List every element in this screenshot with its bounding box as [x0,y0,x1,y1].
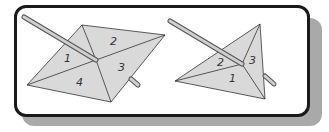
left-face-label: 4 [76,76,83,89]
left-face-outline [27,25,165,102]
right-rod [170,21,242,64]
diagram-canvas: 1 2 3 4 2 3 1 [0,0,329,132]
left-face-label: 3 [118,61,125,74]
right-face-label: 2 [217,56,224,69]
right-face-label: 1 [229,72,236,85]
right-pyramid: 2 3 1 [170,21,274,99]
left-face-label: 2 [110,35,117,48]
left-pyramid: 1 2 3 4 [24,17,165,102]
left-face-label: 1 [64,52,71,65]
right-face-label: 3 [249,54,256,67]
